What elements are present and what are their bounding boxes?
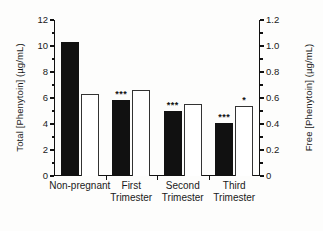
y-axis-left-tick-label: 6 <box>43 93 48 103</box>
plot-area: 121086420 1.21.00.80.60.40.20 ********** <box>54 20 260 176</box>
axis-tick-right <box>260 19 264 20</box>
y-axis-left-line <box>54 20 55 176</box>
axis-tick-left <box>52 162 55 163</box>
axis-tick-left <box>50 123 54 124</box>
y-axis-right-tick-label: 1.0 <box>266 41 279 51</box>
bar-free-3 <box>184 104 202 176</box>
phenytoin-bar-chart: Total [Phenytoin] (µg/mL) Free [Phenytoi… <box>0 0 323 231</box>
significance-marker-total-3: *** <box>167 101 179 110</box>
significance-marker-total-2: *** <box>115 90 127 99</box>
axis-tick-left <box>52 136 55 137</box>
y-axis-right-tick-label: 0.4 <box>266 119 279 129</box>
axis-tick-right <box>260 175 264 176</box>
axis-tick-right <box>260 136 263 137</box>
axis-tick-right <box>260 97 264 98</box>
significance-marker-free-4: * <box>242 96 246 105</box>
axis-tick-right <box>260 84 263 85</box>
bar-total-4 <box>215 123 233 176</box>
axis-tick-right <box>260 162 263 163</box>
y-axis-left-tick-label: 8 <box>43 67 48 77</box>
x-axis-separator-tick <box>209 176 210 180</box>
y-axis-right-tick-label: 0.8 <box>266 67 279 77</box>
axis-tick-left <box>50 71 54 72</box>
x-axis-group-label-4: Third Trimester <box>213 180 255 204</box>
y-axis-left-tick-label: 2 <box>43 145 48 155</box>
axis-tick-right <box>260 32 263 33</box>
axis-tick-left <box>50 19 54 20</box>
axis-tick-left <box>50 45 54 46</box>
axis-tick-left <box>52 32 55 33</box>
x-axis-group-label-2: First Trimester <box>110 180 152 204</box>
axis-tick-right <box>260 149 264 150</box>
axis-tick-left <box>52 84 55 85</box>
y-axis-right-tick-label: 1.2 <box>266 15 279 25</box>
bar-free-4 <box>235 106 253 176</box>
y-axis-left-tick-label: 0 <box>43 171 48 181</box>
y-axis-right-title: Free [Phenytoin] (µg/mL) <box>303 28 314 168</box>
y-axis-right-tick-label: 0.6 <box>266 93 279 103</box>
y-axis-right-tick-label: 0 <box>266 171 271 181</box>
axis-tick-right <box>260 110 263 111</box>
axis-tick-left <box>52 58 55 59</box>
y-axis-left-title: Total [Phenytoin] (µg/mL) <box>14 28 25 168</box>
axis-tick-right <box>260 123 264 124</box>
bar-free-2 <box>132 90 150 176</box>
bar-total-2 <box>112 100 130 176</box>
y-axis-left-tick-label: 4 <box>43 119 48 129</box>
axis-tick-left <box>50 149 54 150</box>
y-axis-left-tick-label: 12 <box>37 15 48 25</box>
axis-tick-right <box>260 58 263 59</box>
x-axis-group-label-1: Non-pregnant <box>49 180 110 192</box>
y-axis-right-tick-label: 0.2 <box>266 145 279 155</box>
axis-tick-left <box>50 97 54 98</box>
bar-total-3 <box>164 111 182 176</box>
axis-tick-left <box>50 175 54 176</box>
x-axis-separator-tick <box>157 176 158 180</box>
axis-tick-left <box>52 110 55 111</box>
axis-tick-right <box>260 45 264 46</box>
y-axis-left-tick-label: 10 <box>37 41 48 51</box>
bar-total-1 <box>61 42 79 176</box>
axis-tick-right <box>260 71 264 72</box>
bar-free-1 <box>81 94 99 176</box>
x-axis-group-label-3: Second Trimester <box>162 180 204 204</box>
significance-marker-total-4: *** <box>218 113 230 122</box>
